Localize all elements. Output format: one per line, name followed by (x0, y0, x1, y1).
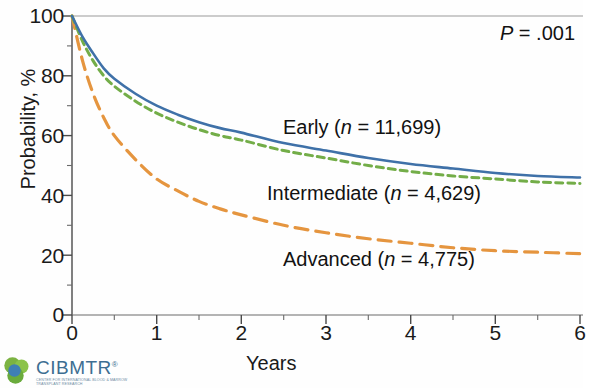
x-tick-2: 2 (226, 322, 256, 343)
p-value-annotation: P = .001 (500, 22, 575, 44)
x-axis-title: Years (246, 352, 296, 374)
series-label-intermediate-prefix: Intermediate ( (267, 182, 390, 204)
series-label-intermediate: Intermediate (n = 4,629) (267, 182, 481, 204)
series-label-early-prefix: Early ( (283, 116, 341, 138)
x-tick-1: 1 (142, 322, 172, 343)
y-tick-20: 20 (18, 245, 64, 266)
n-symbol-advanced: n (384, 248, 395, 270)
cibmtr-logo: CIBMTR® Center for International Blood &… (2, 354, 132, 388)
y-axis-title: Probability, % (17, 49, 39, 209)
series-label-early-suffix: = 11,699) (352, 116, 441, 138)
n-symbol-early: n (341, 116, 352, 138)
x-axis-tick-labels: 0 1 2 3 4 5 6 (0, 322, 583, 352)
x-tick-3: 3 (311, 322, 341, 343)
series-label-advanced-suffix: = 4,775) (395, 248, 475, 270)
cibmtr-wordmark-text: CIBMTR (36, 358, 112, 379)
cibmtr-wordmark: CIBMTR® (36, 355, 132, 377)
x-tick-5: 5 (480, 322, 510, 343)
y-axis-minor-ticks (67, 46, 72, 285)
x-tick-4: 4 (396, 322, 426, 343)
cibmtr-logo-text: CIBMTR® Center for International Blood &… (36, 355, 132, 386)
cibmtr-tagline: Center for International Blood & Marrow … (36, 378, 132, 387)
series-label-advanced-prefix: Advanced ( (283, 248, 384, 270)
series-label-early: Early (n = 11,699) (283, 116, 441, 138)
series-label-advanced: Advanced (n = 4,775) (283, 248, 475, 270)
p-value-symbol: P (500, 22, 513, 44)
series-label-intermediate-suffix: = 4,629) (402, 182, 482, 204)
registered-mark: ® (112, 360, 118, 369)
y-tick-100: 100 (18, 5, 64, 26)
n-symbol-intermediate: n (390, 182, 401, 204)
cibmtr-logo-mark-icon (2, 356, 32, 386)
x-tick-6: 6 (565, 322, 590, 343)
p-value-text: = .001 (513, 22, 575, 44)
x-tick-0: 0 (57, 322, 87, 343)
